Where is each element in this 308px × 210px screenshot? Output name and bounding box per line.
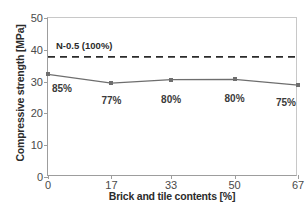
y-tick-label: 30 (31, 76, 43, 88)
data-point-marker (46, 72, 50, 76)
reference-line-label: N-0.5 (100%) (56, 40, 113, 51)
plot-area: 01020304050017335067N-0.5 (100%)85%77%80… (47, 17, 297, 176)
y-tick-label: 40 (31, 44, 43, 56)
data-point-marker (233, 77, 237, 81)
plot-inner: 01020304050017335067N-0.5 (100%)85%77%80… (48, 18, 296, 175)
x-axis-title: Brick and tile contents [%] (47, 190, 297, 202)
x-tick-label: 67 (292, 179, 304, 191)
y-tick-label: 20 (31, 107, 43, 119)
data-point-marker (296, 83, 300, 87)
data-point-label: 77% (101, 95, 121, 106)
data-point-label: 80% (225, 93, 245, 104)
x-tick-mark (298, 175, 299, 179)
data-point-label: 80% (161, 94, 181, 105)
x-tick-label: 17 (105, 179, 117, 191)
y-tick-label: 0 (37, 171, 43, 183)
chart-figure: Compressive strength [MPa] Brick and til… (0, 0, 308, 210)
data-point-marker (169, 78, 173, 82)
x-tick-label: 33 (165, 179, 177, 191)
x-tick-label: 50 (228, 179, 240, 191)
data-point-label: 85% (52, 83, 72, 94)
data-point-marker (109, 81, 113, 85)
data-point-label: 75% (276, 97, 296, 108)
y-tick-label: 10 (31, 139, 43, 151)
x-tick-label: 0 (45, 179, 51, 191)
y-tick-label: 50 (31, 12, 43, 24)
y-axis-title: Compressive strength [MPa] (14, 8, 26, 178)
